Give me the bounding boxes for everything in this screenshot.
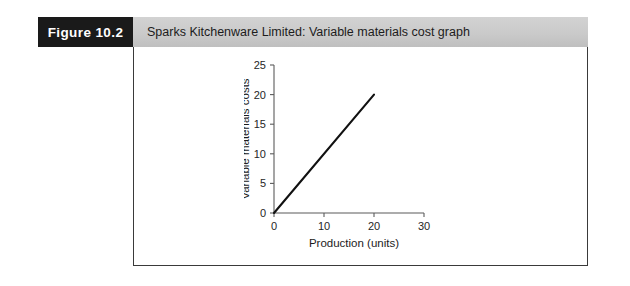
y-tick-label: 25 [254,59,266,71]
chart-container: 0 5 10 15 20 25 0 10 20 30 [244,55,544,260]
y-tick-label: 20 [254,89,266,101]
figure-title: Sparks Kitchenware Limited: Variable mat… [147,17,470,47]
figure-content-frame: 0 5 10 15 20 25 0 10 20 30 [133,46,588,266]
y-tick-label: 5 [260,177,266,189]
x-tick-label: 20 [368,220,380,232]
figure-number-label: Figure 10.2 [38,17,133,47]
variable-materials-cost-chart: 0 5 10 15 20 25 0 10 20 30 [244,55,544,260]
figure-header-bar: Sparks Kitchenware Limited: Variable mat… [133,17,588,47]
x-tick-label: 30 [418,220,430,232]
x-axis-title: Production (units) [309,237,399,249]
figure-number-text: Figure 10.2 [48,25,124,40]
x-axis-ticks [274,213,424,217]
y-axis-title: Variable materials costs [244,78,251,199]
y-axis-ticks [270,65,274,213]
y-axis-tick-labels: 0 5 10 15 20 25 [254,59,266,219]
x-axis-tick-labels: 0 10 20 30 [271,220,430,232]
x-tick-label: 0 [271,220,277,232]
x-tick-label: 10 [318,220,330,232]
y-tick-label: 0 [260,207,266,219]
y-tick-label: 15 [254,118,266,130]
y-tick-label: 10 [254,148,266,160]
data-series-line [274,95,374,213]
